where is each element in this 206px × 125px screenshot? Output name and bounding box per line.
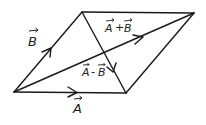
label-sum-a: A	[104, 22, 113, 35]
label-diff-a: A	[81, 66, 90, 79]
label-vector-a: A	[72, 96, 82, 116]
vector-parallelogram-diagram: B A A + B A - B	[0, 0, 206, 125]
label-sum: A + B	[104, 19, 132, 36]
label-diff-minus: -	[91, 65, 95, 78]
edge-a	[14, 92, 126, 93]
label-sum-b: B	[124, 22, 132, 35]
label-a-text: A	[72, 101, 82, 116]
edge-right	[126, 13, 194, 93]
arrowhead-b-icon	[42, 48, 51, 57]
label-diff-b: B	[98, 66, 106, 79]
edge-top	[82, 12, 194, 13]
label-sum-plus: +	[115, 21, 124, 34]
edge-b	[14, 12, 82, 92]
label-b-text: B	[28, 34, 37, 49]
label-vector-b: B	[28, 28, 38, 49]
label-difference: A - B	[81, 63, 106, 79]
